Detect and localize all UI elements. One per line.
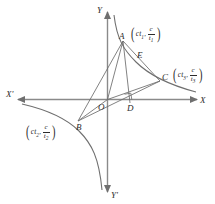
coord-c-den: t3 bbox=[191, 75, 196, 84]
hyperbola-curves-group bbox=[22, 15, 196, 190]
axis-labels-group: X' X Y Y' bbox=[5, 5, 206, 200]
point-label-c: C bbox=[162, 72, 169, 82]
x-axis-negative-label: X' bbox=[5, 89, 14, 99]
geometry-diagram: A B C D E O X' X Y Y' ( ct1 , c t1 ) ( c… bbox=[0, 0, 215, 204]
axes-group bbox=[17, 11, 198, 193]
point-label-b: B bbox=[76, 122, 82, 132]
y-axis-negative-label: Y' bbox=[111, 190, 119, 200]
point-label-a: A bbox=[118, 31, 125, 41]
point-label-d: D bbox=[126, 103, 134, 113]
coordinate-label-b: ( ct2 , c t2 ) bbox=[25, 124, 56, 141]
coord-a-x: ct1 bbox=[135, 30, 144, 40]
x-axis-left-arrow-icon bbox=[17, 96, 25, 103]
coord-c-y-fraction: c t3 bbox=[189, 67, 198, 84]
triangle-group bbox=[78, 41, 160, 121]
hyperbola-branch-quadrant-3 bbox=[22, 104, 102, 190]
origin-rays-group bbox=[78, 41, 160, 121]
coord-b-x: ct2 bbox=[30, 128, 39, 138]
coord-b-den: t2 bbox=[44, 132, 49, 141]
left-paren-b: ( bbox=[26, 126, 29, 139]
coord-a-den: t1 bbox=[149, 34, 154, 43]
coord-a-y-fraction: c t1 bbox=[147, 26, 156, 43]
coord-c-x: ct3 bbox=[177, 71, 186, 81]
segment-oc bbox=[108, 81, 161, 100]
right-paren-c: ) bbox=[199, 69, 202, 82]
left-paren-c: ( bbox=[173, 69, 176, 82]
point-label-e: E bbox=[136, 50, 143, 60]
geometry-canvas: A B C D E O X' X Y Y' bbox=[0, 0, 215, 204]
x-axis-positive-label: X bbox=[199, 95, 206, 105]
right-paren-a: ) bbox=[157, 28, 160, 41]
y-axis-up-arrow-icon bbox=[104, 11, 111, 19]
coord-b-y-fraction: c t2 bbox=[42, 124, 51, 141]
y-axis-down-arrow-icon bbox=[104, 185, 111, 193]
left-paren-a: ( bbox=[131, 28, 134, 41]
y-axis-positive-label: Y bbox=[97, 5, 103, 15]
segment-ac bbox=[123, 41, 160, 81]
origin-label: O bbox=[98, 102, 105, 112]
coordinate-label-a: ( ct1 , c t1 ) bbox=[130, 26, 161, 43]
segment-oa bbox=[108, 41, 124, 100]
segment-bc bbox=[78, 81, 160, 121]
coordinate-label-c: ( ct3 , c t3 ) bbox=[172, 67, 203, 84]
right-paren-b: ) bbox=[52, 126, 55, 139]
x-axis-right-arrow-icon bbox=[190, 96, 198, 103]
